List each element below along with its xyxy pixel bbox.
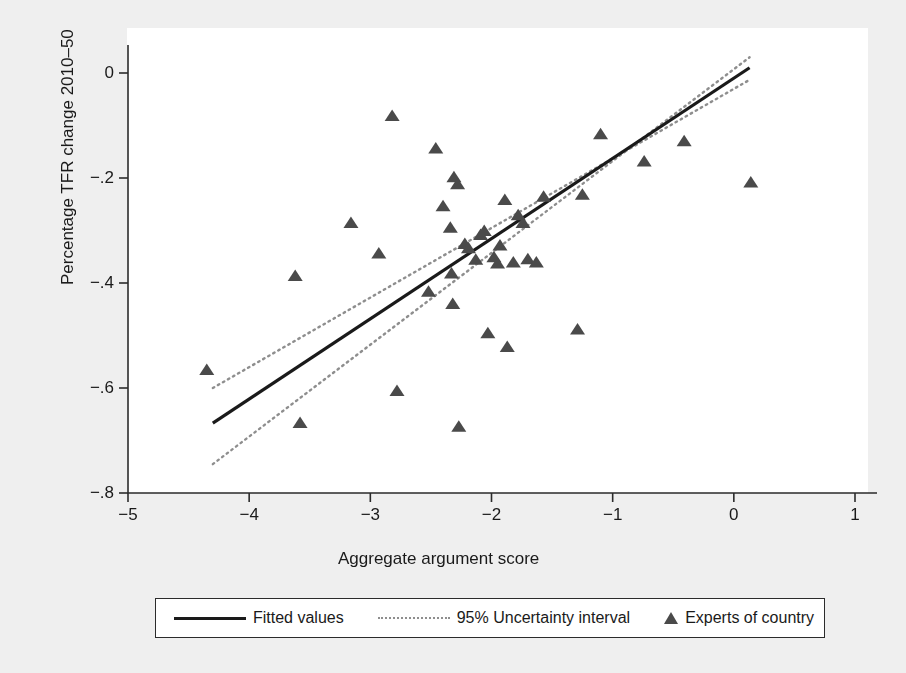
legend-label-experts-of-country: Experts of country: [685, 609, 814, 627]
solid-line-icon: [174, 617, 246, 620]
triangle-marker-icon: [664, 612, 678, 624]
figure-container: Percentage TFR change 2010–50 Aggregate …: [0, 0, 906, 673]
legend-label-fitted-values: Fitted values: [253, 609, 344, 627]
x-axis-title: Aggregate argument score: [338, 549, 539, 569]
scatter-plot-canvas: [0, 0, 906, 673]
legend-item-uncertainty-interval: 95% Uncertainty interval: [378, 609, 630, 627]
dotted-line-icon: [378, 617, 450, 619]
chart-legend: Fitted values 95% Uncertainty interval E…: [155, 598, 825, 638]
y-axis-title: Percentage TFR change 2010–50: [58, 29, 78, 285]
legend-item-experts-of-country: Experts of country: [664, 609, 814, 627]
legend-label-uncertainty-interval: 95% Uncertainty interval: [457, 609, 630, 627]
legend-item-fitted-values: Fitted values: [174, 609, 344, 627]
